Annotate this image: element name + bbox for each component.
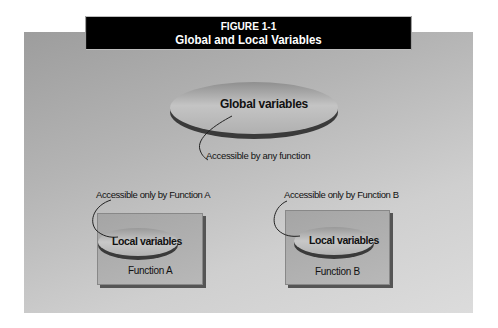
function-a-annotation: Accessible only by Function A [96, 189, 210, 200]
diagram-shapes [0, 0, 498, 328]
function-b-annotation: Accessible only by Function B [284, 189, 399, 200]
function-a-name: Function A [128, 265, 172, 276]
function-b-name: Function B [315, 266, 360, 277]
global-annotation: Accessible by any function [206, 150, 310, 161]
local-b-connector-line [274, 201, 300, 236]
function-b-local-label: Local variables [309, 234, 379, 246]
global-variables-label: Global variables [220, 97, 308, 111]
function-a-local-label: Local variables [112, 235, 182, 247]
